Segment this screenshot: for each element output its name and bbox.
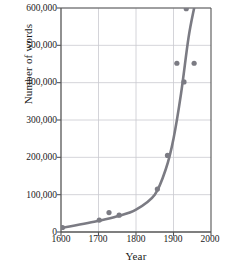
data-point — [192, 61, 197, 66]
data-point — [184, 6, 189, 11]
chart-figure: Number of words 600,000 500,000 400,000 … — [0, 0, 226, 272]
data-point — [181, 79, 186, 84]
data-point — [97, 217, 102, 222]
data-point — [117, 213, 122, 218]
data-point — [155, 186, 160, 191]
data-point — [106, 210, 111, 215]
fit-curve — [61, 8, 194, 228]
plot-canvas — [0, 0, 226, 272]
data-point — [165, 153, 170, 158]
data-point — [174, 61, 179, 66]
